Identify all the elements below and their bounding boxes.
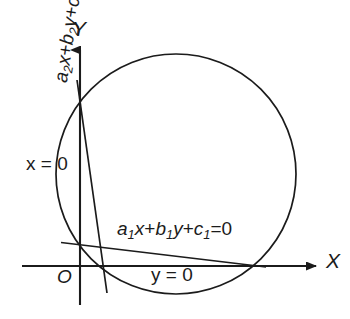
x-axis-label: X bbox=[326, 250, 340, 271]
line-1-equation-label: a1x+b1y+c1=0 bbox=[117, 219, 232, 242]
line-1-coef-a-subscript: 1 bbox=[128, 227, 135, 242]
line-1-zero: 0 bbox=[222, 218, 233, 239]
origin-label: O bbox=[57, 267, 72, 286]
line-1-coef-c: c bbox=[194, 218, 204, 239]
y-equals-zero-label: y = 0 bbox=[151, 265, 193, 284]
x-equals-zero-label: x = 0 bbox=[26, 154, 68, 173]
geometry-figure: Y X O x = 0 y = 0 a1x+b1y+c1=0 a2x+b2y+c… bbox=[0, 0, 350, 319]
line-1-plus-1: + bbox=[144, 218, 155, 239]
line-1-coef-b: b bbox=[155, 218, 166, 239]
circle-shape bbox=[56, 54, 296, 294]
line-2-stroke bbox=[77, 80, 107, 293]
line-1-var-y: y bbox=[173, 218, 183, 239]
line-1-var-x: x bbox=[135, 218, 145, 239]
line-1-plus-2: + bbox=[183, 218, 194, 239]
line-1-coef-a: a bbox=[117, 218, 128, 239]
line-1-equals: = bbox=[210, 218, 221, 239]
